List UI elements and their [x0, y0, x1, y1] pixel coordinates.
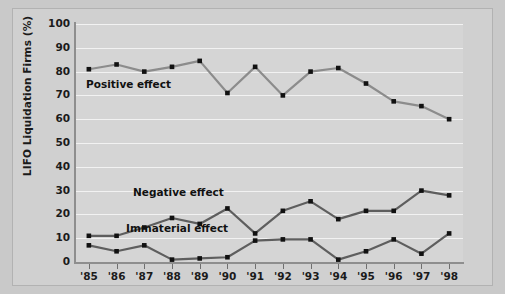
x-tick-label: '92 [274, 270, 292, 282]
x-tick-label: '97 [413, 270, 431, 282]
data-point-marker [114, 249, 119, 254]
data-point-marker [336, 66, 341, 71]
data-point-marker [447, 231, 452, 236]
data-point-marker [364, 81, 369, 86]
data-point-marker [87, 243, 92, 248]
x-tick-mark [283, 264, 284, 269]
data-point-marker [308, 69, 313, 74]
series-annotation-label: Negative effect [133, 186, 224, 198]
data-point-marker [142, 243, 147, 248]
data-point-marker [87, 67, 92, 72]
data-point-marker [336, 217, 341, 222]
data-point-marker [391, 209, 396, 214]
data-point-marker [87, 234, 92, 239]
data-point-marker [253, 65, 258, 70]
x-tick-label: '94 [329, 270, 347, 282]
x-tick-label: '96 [385, 270, 403, 282]
data-point-marker [308, 237, 313, 242]
x-tick-mark [394, 264, 395, 269]
x-tick-mark [421, 264, 422, 269]
x-tick-mark [449, 264, 450, 269]
series-lines-layer [0, 0, 505, 294]
series-annotation-label: Positive effect [86, 78, 171, 90]
chart-figure: LIFO Liquidation Firms (%) 0102030405060… [0, 0, 505, 294]
data-point-marker [225, 255, 230, 260]
data-point-marker [170, 65, 175, 70]
x-tick-label: '98 [440, 270, 458, 282]
data-point-marker [114, 62, 119, 67]
data-point-marker [364, 249, 369, 254]
x-tick-label: '88 [163, 270, 181, 282]
data-point-marker [391, 237, 396, 242]
x-tick-mark [89, 264, 90, 269]
data-point-marker [447, 117, 452, 122]
data-point-marker [170, 257, 175, 262]
data-point-marker [447, 193, 452, 198]
data-point-marker [419, 104, 424, 109]
data-point-marker [364, 209, 369, 214]
data-point-marker [391, 99, 396, 104]
data-point-marker [281, 93, 286, 98]
x-tick-label: '85 [80, 270, 98, 282]
data-point-marker [142, 69, 147, 74]
series-annotation-label: Immaterial effect [126, 222, 228, 234]
data-point-marker [419, 251, 424, 256]
x-tick-mark [227, 264, 228, 269]
x-tick-label: '93 [302, 270, 320, 282]
x-tick-label: '89 [191, 270, 209, 282]
x-tick-mark [144, 264, 145, 269]
data-point-marker [253, 238, 258, 243]
data-point-marker [281, 237, 286, 242]
x-tick-mark [172, 264, 173, 269]
x-tick-mark [117, 264, 118, 269]
x-tick-mark [338, 264, 339, 269]
data-point-marker [308, 199, 313, 204]
data-point-marker [225, 91, 230, 96]
x-tick-mark [200, 264, 201, 269]
x-tick-mark [366, 264, 367, 269]
data-point-marker [281, 209, 286, 214]
data-point-marker [419, 188, 424, 193]
x-tick-label: '86 [108, 270, 126, 282]
x-tick-label: '87 [135, 270, 153, 282]
data-point-marker [197, 256, 202, 261]
data-point-marker [114, 234, 119, 239]
data-point-marker [225, 206, 230, 211]
data-point-marker [170, 216, 175, 221]
data-point-marker [197, 59, 202, 64]
data-point-marker [253, 231, 258, 236]
data-point-marker [336, 257, 341, 262]
x-tick-mark [311, 264, 312, 269]
x-tick-label: '91 [246, 270, 264, 282]
x-tick-label: '95 [357, 270, 375, 282]
x-tick-label: '90 [219, 270, 237, 282]
x-tick-mark [255, 264, 256, 269]
